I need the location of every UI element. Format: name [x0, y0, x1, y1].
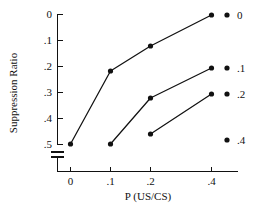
series-1-point-0 — [108, 141, 113, 146]
series-0 — [68, 12, 214, 146]
series-1-point-1 — [148, 95, 153, 100]
legend-label-3: .4 — [237, 134, 246, 146]
x-tick-label-2: .2 — [146, 175, 154, 187]
y-tick-label-4: .4 — [44, 112, 53, 124]
y-tick-label-3: .3 — [44, 86, 53, 98]
x-axis-title: P (US/CS) — [125, 190, 172, 203]
series-0-point-0 — [68, 141, 73, 146]
y-tick-label-1: .1 — [44, 34, 52, 46]
chart-figure: 0 .1 .2 .3 .4 .5 0 .1 .2 .4 P (US/CS) Su… — [0, 0, 263, 208]
series-1 — [108, 65, 214, 146]
y-tick-label-5: .5 — [44, 138, 53, 150]
legend-label-0: 0 — [237, 9, 243, 21]
series-0-point-1 — [108, 68, 113, 73]
y-tick-label-0: 0 — [47, 8, 53, 20]
series-0-line — [71, 15, 212, 144]
y-tick-label-2: .2 — [44, 60, 52, 72]
series-2-point-0 — [148, 131, 153, 136]
x-axis-ticks — [71, 167, 212, 172]
legend-marker-3 — [224, 137, 229, 142]
x-tick-label-1: .1 — [106, 175, 114, 187]
series-2-line — [151, 94, 212, 134]
y-axis-ticks — [58, 15, 64, 145]
x-tick-label-0: 0 — [68, 175, 74, 187]
series-0-point-3 — [209, 12, 214, 17]
legend-marker-1 — [224, 65, 229, 70]
series-0-point-2 — [148, 43, 153, 48]
legend-label-1: .1 — [237, 62, 245, 74]
legend-label-2: .2 — [237, 88, 245, 100]
series-2-point-1 — [209, 91, 214, 96]
legend: 0 .1 .2 .4 — [224, 9, 245, 146]
series-1-point-2 — [209, 65, 214, 70]
legend-marker-2 — [224, 91, 229, 96]
chart-plot-area: 0 .1 .2 .3 .4 .5 0 .1 .2 .4 P (US/CS) Su… — [0, 0, 263, 208]
x-tick-label-3: .4 — [207, 175, 216, 187]
series-2 — [148, 91, 214, 136]
series-1-line — [111, 68, 212, 144]
legend-marker-0 — [224, 12, 229, 17]
y-axis-title: Suppression Ratio — [7, 52, 19, 133]
